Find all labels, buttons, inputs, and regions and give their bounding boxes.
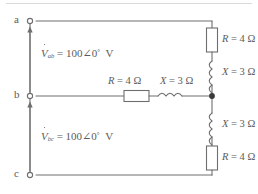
component-label-r-top-right: R = 4 Ω — [222, 34, 255, 45]
resistor-symbol-bottom-right — [207, 146, 218, 170]
phasor-dot-accent-vbc: V — [41, 131, 48, 142]
terminal-label-c: c — [14, 168, 19, 179]
resistor-symbol-top-right — [207, 28, 218, 52]
terminal-label-a: a — [14, 14, 19, 25]
terminal-node-c — [27, 172, 32, 177]
phasor-dot-accent-vab: V — [41, 48, 48, 59]
terminal-node-a — [27, 18, 32, 23]
component-label-x-middle: X = 3 Ω — [160, 76, 193, 87]
source-label-vab: Vab = 100∠0° V — [41, 48, 113, 60]
component-label-x-top-right: X = 3 Ω — [222, 67, 255, 78]
terminal-node-b — [27, 93, 32, 98]
source-arrow-head-vbc — [27, 102, 32, 108]
junction-dot-right-mid — [209, 93, 215, 99]
inductor-symbol-middle — [158, 93, 182, 96]
component-label-r-bottom-right: R = 4 Ω — [222, 152, 255, 163]
terminal-label-b: b — [14, 89, 20, 100]
resistor-symbol-middle — [124, 91, 149, 102]
component-label-x-bottom-right: X = 3 Ω — [222, 119, 255, 130]
source-arrow-head-vab — [27, 27, 32, 33]
source-label-vbc: Vbc = 100∠0° V — [41, 131, 113, 143]
component-label-r-middle: R = 4 Ω — [108, 76, 141, 87]
circuit-schematic-canvas — [0, 0, 258, 194]
circuit-diagram-figure: a b c Vab = 100∠0° V Vbc = 100∠0° V R = … — [0, 0, 258, 194]
